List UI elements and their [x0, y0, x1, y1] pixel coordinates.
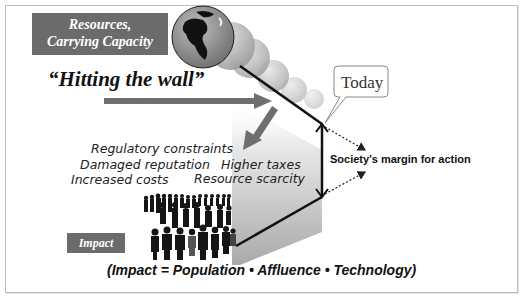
resources-label-box: Resources, Carrying Capacity [32, 13, 168, 55]
hitting-wall-arrow [104, 93, 272, 109]
hitting-the-wall-title: “Hitting the wall” [48, 67, 204, 92]
consequence-reputation: Damaged reputation [80, 157, 210, 172]
consequence-costs: Increased costs [71, 172, 169, 187]
consequence-regulatory: Regulatory constraints [91, 141, 233, 156]
margin-for-action-label: Society's margin for action [330, 153, 471, 165]
consequence-taxes: Higher taxes [221, 157, 301, 172]
impact-label-box: Impact [67, 233, 125, 253]
impact-label: Impact [79, 236, 114, 250]
impact-formula: (Impact = Population • Affluence • Techn… [107, 262, 416, 278]
globe-icon [172, 6, 234, 68]
resources-label-line1: Resources, [32, 16, 168, 33]
resources-label-line2: Carrying Capacity [32, 33, 168, 50]
today-label: Today [341, 73, 383, 93]
consequence-scarcity: Resource scarcity [194, 171, 305, 186]
crowd-icon [144, 194, 236, 260]
